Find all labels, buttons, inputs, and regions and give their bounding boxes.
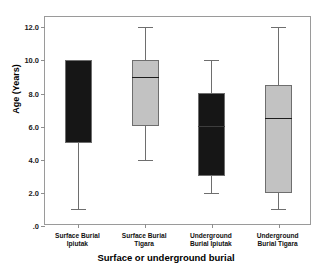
y-axis-tick-label: 4.0 <box>29 156 41 165</box>
lower-whisker-cap <box>71 209 86 210</box>
y-axis-tick-mark <box>41 193 45 194</box>
y-axis-tick-label: 12.0 <box>24 23 41 32</box>
median-line <box>265 118 292 119</box>
box-plot-item[interactable] <box>65 17 92 224</box>
lower-whisker <box>78 143 79 209</box>
y-axis-tick-mark <box>41 94 45 95</box>
upper-whisker-cap <box>204 60 219 61</box>
y-axis-tick-label: 8.0 <box>29 90 41 99</box>
lower-whisker <box>278 193 279 210</box>
upper-whisker <box>278 27 279 85</box>
y-axis-tick: 10.0 <box>24 51 45 69</box>
x-axis-tick-mark <box>212 224 213 228</box>
x-axis-tick-mark <box>78 224 79 228</box>
upper-whisker <box>211 60 212 93</box>
y-axis-tick-mark <box>41 60 45 61</box>
y-axis-tick-label: .0 <box>33 222 41 231</box>
box-plot-item[interactable] <box>132 17 159 224</box>
y-axis-tick-mark <box>41 226 45 227</box>
lower-whisker <box>211 176 212 193</box>
box-plot-item[interactable] <box>265 17 292 224</box>
box-plot-item[interactable] <box>198 17 225 224</box>
y-axis-tick-mark <box>41 127 45 128</box>
box-iqr <box>132 60 159 126</box>
y-axis-tick: 6.0 <box>29 117 45 135</box>
lower-whisker-cap <box>271 209 286 210</box>
category-label-line: Underground <box>239 232 317 240</box>
y-axis-tick-mark <box>41 27 45 28</box>
y-axis-tick-label: 10.0 <box>24 56 41 65</box>
x-axis-title: Surface or underground burial <box>0 252 332 263</box>
y-axis-tick: 8.0 <box>29 84 45 102</box>
upper-whisker-cap <box>271 27 286 28</box>
y-axis-tick-label: 6.0 <box>29 123 41 132</box>
lower-whisker-cap <box>138 160 153 161</box>
y-axis-tick: 12.0 <box>24 18 45 36</box>
lower-whisker-cap <box>204 193 219 194</box>
y-axis-tick-mark <box>41 160 45 161</box>
box-iqr <box>198 93 225 176</box>
x-axis-category-label: UndergroundBurial Tigara <box>239 232 317 248</box>
plot-area: .02.04.06.08.010.012.0 <box>44 16 311 225</box>
x-axis-tick-mark <box>279 224 280 228</box>
median-line <box>132 77 159 78</box>
box-iqr <box>265 85 292 193</box>
category-label-line: Burial Tigara <box>239 240 317 248</box>
y-axis-tick: 2.0 <box>29 184 45 202</box>
upper-whisker-cap <box>138 27 153 28</box>
y-axis-title: Age (Years) <box>11 34 21 144</box>
median-line <box>198 126 225 127</box>
box-iqr <box>65 60 92 143</box>
upper-whisker <box>145 27 146 60</box>
y-axis-tick: 4.0 <box>29 151 45 169</box>
y-axis-tick-label: 2.0 <box>29 189 41 198</box>
x-axis-tick-mark <box>145 224 146 228</box>
lower-whisker <box>145 126 146 159</box>
boxplot-figure: Age (Years) .02.04.06.08.010.012.0 Surfa… <box>0 0 332 270</box>
